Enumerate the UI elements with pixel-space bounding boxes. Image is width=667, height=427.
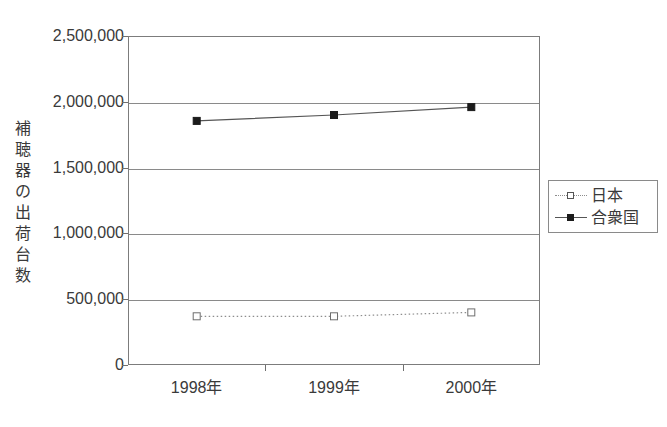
- gridline: [129, 234, 539, 235]
- y-axis-title-char: 聴: [12, 139, 34, 160]
- y-axis-title-char: 荷: [12, 223, 34, 244]
- gridline: [129, 300, 539, 301]
- y-axis-title-char: 出: [12, 202, 34, 223]
- y-tick-label: 1,000,000: [53, 225, 124, 241]
- legend-swatch-usa: [554, 211, 588, 225]
- y-axis-title-char: 台: [12, 244, 34, 265]
- y-axis-title-char: 補: [12, 118, 34, 139]
- y-axis-title: 補聴器の出荷台数: [12, 118, 34, 286]
- x-tick-label: 1999年: [308, 378, 360, 398]
- gridline: [129, 169, 539, 170]
- legend-label-japan: 日本: [591, 187, 623, 205]
- y-tick-mark: [122, 365, 128, 366]
- y-axis-title-char: の: [12, 181, 34, 202]
- x-tick-label: 1998年: [171, 378, 223, 398]
- y-tick-label: 1,500,000: [53, 160, 124, 176]
- plot-area: [128, 36, 540, 365]
- legend-label-usa: 合衆国: [591, 209, 639, 227]
- chart-container: 補聴器の出荷台数 2,500,0002,000,0001,500,0001,00…: [0, 0, 667, 427]
- legend-item-usa: 合衆国: [554, 207, 652, 229]
- y-tick-label: 2,000,000: [53, 94, 124, 110]
- legend-item-japan: 日本: [554, 185, 652, 207]
- x-tick-label: 2000年: [446, 378, 498, 398]
- y-tick-label: 2,500,000: [53, 28, 124, 44]
- x-tick-mark: [265, 365, 266, 371]
- x-tick-mark: [403, 365, 404, 371]
- legend-swatch-japan: [554, 189, 588, 203]
- y-tick-label: 500,000: [66, 291, 124, 307]
- y-axis-title-char: 器: [12, 160, 34, 181]
- gridline: [129, 103, 539, 104]
- legend: 日本 合衆国: [548, 180, 658, 233]
- y-axis-title-char: 数: [12, 265, 34, 286]
